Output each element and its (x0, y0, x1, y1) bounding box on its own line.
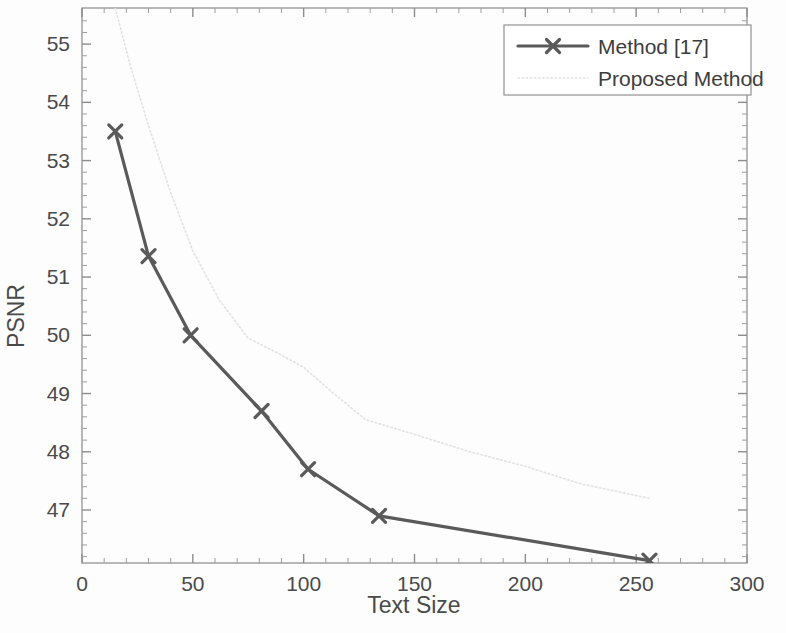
y-tick-label-49: 49 (47, 382, 70, 405)
y-tick-label-48: 48 (47, 440, 70, 463)
y-tick-label-54: 54 (47, 90, 71, 113)
figure-container: 050100150200250300 474849505152535455 Te… (0, 0, 786, 633)
y-tick-label-52: 52 (47, 207, 70, 230)
y-axis-tick-labels: 474849505152535455 (47, 32, 71, 521)
y-tick-label-47: 47 (47, 498, 70, 521)
x-tick-label-300: 300 (729, 572, 764, 595)
y-tick-label-50: 50 (47, 323, 70, 346)
x-tick-label-100: 100 (286, 572, 321, 595)
chart-legend[interactable]: Method [17]Proposed Method (504, 25, 764, 95)
y-tick-label-53: 53 (47, 149, 70, 172)
legend-label-2: Proposed Method (598, 67, 764, 90)
x-tick-label-50: 50 (181, 572, 204, 595)
x-axis-title: Text Size (367, 592, 460, 618)
psnr-line-chart: 050100150200250300 474849505152535455 Te… (0, 0, 786, 633)
x-tick-label-250: 250 (619, 572, 654, 595)
y-tick-label-55: 55 (47, 32, 70, 55)
y-tick-label-51: 51 (47, 265, 70, 288)
x-tick-label-0: 0 (76, 572, 88, 595)
y-axis-title: PSNR (3, 284, 29, 348)
x-tick-label-200: 200 (508, 572, 543, 595)
legend-label-1: Method [17] (598, 35, 709, 58)
